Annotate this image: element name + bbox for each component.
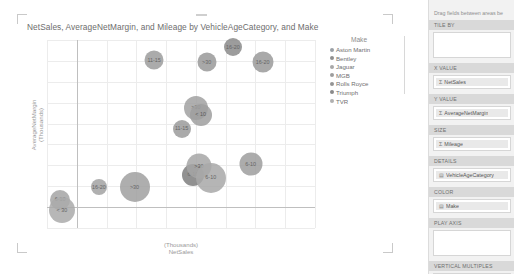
y-gridline (47, 103, 315, 104)
y-gridline (47, 186, 315, 187)
x-gridline (166, 40, 167, 228)
x-gridline (315, 40, 316, 228)
field-well-header: TILE BY (429, 20, 514, 30)
y-gridline (47, 82, 315, 83)
x-axis-label: (Thousands)NetSales (47, 241, 315, 255)
x-gridline (285, 40, 286, 228)
legend-color-dot (330, 90, 334, 94)
x-axis-label-unit: (Thousands) (47, 241, 315, 248)
field-chip-label: Mileage (444, 141, 463, 147)
legend-item-label: TVR (336, 98, 348, 105)
x-gridline (107, 40, 108, 228)
legend-divider (404, 36, 405, 94)
field-well-header: VERTICAL MULTIPLES (429, 261, 514, 271)
legend-item[interactable]: Rolls Royce (330, 80, 388, 87)
scatter-bubble[interactable]: < 30 (49, 197, 75, 223)
legend-color-dot (330, 65, 334, 69)
legend-item-label: Bentley (336, 55, 356, 62)
scatter-bubble[interactable]: < 10 (190, 104, 212, 126)
scatter-bubble[interactable]: 16-20 (91, 179, 107, 195)
legend-item[interactable]: Aston Martin (330, 46, 388, 53)
legend-item-label: MGB (336, 72, 350, 79)
x-axis-label-field: NetSales (47, 248, 315, 255)
field-chip-label: AverageNetMargin (444, 110, 488, 116)
scatter-bubble[interactable]: 16-20 (224, 38, 242, 56)
field-chip-label: Make (446, 203, 459, 209)
field-well-dropzone[interactable]: ΣAverageNetMargin (433, 106, 511, 120)
legend-item[interactable]: TVR (330, 98, 388, 105)
field-chip[interactable]: ▤VehicleAgeCategory (436, 171, 508, 179)
field-well-dropzone[interactable]: ▤Make (433, 199, 511, 213)
visualization-fields-pane: Drag fields between areas be TILE BYX VA… (428, 0, 514, 274)
scatter-bubble[interactable]: >30 (197, 52, 216, 71)
legend-color-dot (330, 82, 334, 86)
field-chip[interactable]: ▤Make (436, 202, 508, 210)
field-icon: ▤ (439, 203, 444, 209)
resize-handle-top[interactable] (196, 14, 207, 16)
scatter-bubble[interactable]: 6-10 (239, 153, 262, 176)
legend-title: Make (330, 36, 388, 43)
field-wells: TILE BYX VALUEΣNetSalesY VALUEΣAverageNe… (429, 20, 514, 274)
sigma-icon: Σ (439, 110, 442, 116)
field-chip-label: VehicleAgeCategory (446, 172, 494, 178)
field-well-header: Y VALUE (429, 94, 514, 104)
y-axis-label-text: AverageNetMargin (Thousands) (30, 100, 44, 151)
field-well-header: SIZE (429, 125, 514, 135)
legend-item-label: Triumph (336, 89, 358, 96)
legend-color-dot (330, 56, 334, 60)
field-well-dropzone[interactable] (433, 32, 511, 58)
y-gridline (47, 144, 315, 145)
field-chip[interactable]: ΣAverageNetMargin (436, 109, 508, 117)
scatter-bubble[interactable]: >30 (120, 172, 150, 202)
report-canvas: NetSales, AverageNetMargin, and Mileage … (0, 0, 424, 274)
visual-title: NetSales, AverageNetMargin, and Mileage … (27, 22, 318, 32)
scatter-bubble[interactable]: 11-15 (173, 120, 191, 138)
legend: Make Aston MartinBentleyJaguarMGBRolls R… (330, 36, 388, 106)
scatter-plot-area[interactable]: -50K0K50K100K150K200K250K300K350K400K-10… (47, 40, 315, 228)
scatter-bubble[interactable]: 11-15 (145, 50, 164, 69)
field-well-header: DETAILS (429, 156, 514, 166)
legend-color-dot (330, 99, 334, 103)
field-well-dropzone[interactable] (433, 230, 511, 256)
legend-item[interactable]: Triumph (330, 89, 388, 96)
x-gridline (196, 40, 197, 228)
field-well-dropzone[interactable]: ΣMileage (433, 137, 511, 151)
y-axis-label: AverageNetMargin (Thousands) (30, 82, 44, 168)
y-gridline (47, 40, 315, 41)
field-chip[interactable]: ΣNetSales (436, 78, 508, 86)
scatter-bubble[interactable]: 6-10 (196, 163, 226, 193)
fields-pane-hint: Drag fields between areas be (429, 0, 514, 20)
field-chip-label: NetSales (444, 79, 466, 85)
selection-corner-top-right (383, 14, 393, 24)
sigma-icon: Σ (439, 141, 442, 147)
legend-item[interactable]: Jaguar (330, 63, 388, 70)
x-axis-line (47, 207, 315, 208)
legend-item-label: Jaguar (336, 63, 355, 70)
selection-corner-bottom-left (17, 243, 27, 253)
legend-color-dot (330, 73, 334, 77)
y-axis-line (77, 40, 78, 228)
selection-corner-bottom-right (383, 243, 393, 253)
y-gridline (47, 61, 315, 62)
field-well-header: PLAY AXIS (429, 218, 514, 228)
y-gridline (47, 165, 315, 166)
scatter-bubble[interactable]: 16-20 (252, 51, 273, 72)
selection-corner-top-left (17, 14, 27, 24)
legend-color-dot (330, 48, 334, 52)
y-gridline (47, 228, 315, 229)
field-icon: ▤ (439, 172, 444, 178)
field-well-header: COLOR (429, 187, 514, 197)
legend-item-label: Aston Martin (336, 46, 370, 53)
legend-items: Aston MartinBentleyJaguarMGBRolls RoyceT… (330, 46, 388, 105)
x-gridline (47, 40, 48, 228)
sigma-icon: Σ (439, 79, 442, 85)
field-well-header: X VALUE (429, 63, 514, 73)
field-chip[interactable]: ΣMileage (436, 140, 508, 148)
field-well-dropzone[interactable]: ΣNetSales (433, 75, 511, 89)
legend-item[interactable]: MGB (330, 72, 388, 79)
x-gridline (226, 40, 227, 228)
field-well-dropzone[interactable]: ▤VehicleAgeCategory (433, 168, 511, 182)
legend-item-label: Rolls Royce (336, 80, 369, 87)
legend-item[interactable]: Bentley (330, 55, 388, 62)
